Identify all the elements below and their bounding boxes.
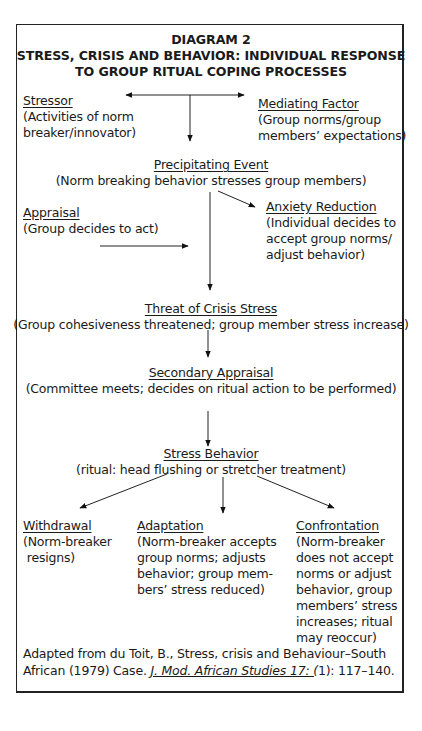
anxiety-reduction-heading: Anxiety Reduction	[266, 199, 376, 215]
citation-line-2: African (1979) Case. J. Mod. African Stu…	[23, 663, 394, 679]
adaptation-text-line: group norms; adjusts	[137, 550, 266, 566]
citation-line-1: Adapted from du Toit, B., Stress, crisis…	[23, 646, 386, 662]
citation-journal: J. Mod. African Studies 17: (	[150, 663, 317, 678]
withdrawal-heading: Withdrawal	[23, 518, 91, 534]
mediating-factor-text-line: members’ expectations)	[258, 128, 406, 144]
anxiety-reduction-text-line: (Individual decides to	[266, 215, 396, 231]
arrow-to-withdrawal	[80, 474, 167, 508]
mediating-factor-heading: Mediating Factor	[258, 96, 359, 112]
anxiety-reduction-text-line: adjust behavior)	[266, 247, 365, 263]
anxiety-reduction-text-line: accept group norms/	[266, 231, 392, 247]
stressor-text-line: breaker/innovator)	[23, 125, 136, 141]
confrontation-text-line: (Norm-breaker	[296, 534, 385, 550]
secondary-appraisal-text-line: (Committee meets; decides on ritual acti…	[0, 381, 422, 397]
secondary-appraisal-heading: Secondary Appraisal	[0, 365, 422, 381]
adaptation-text-line: behavior; group mem-	[137, 566, 273, 582]
stress-behavior-text-line: (ritual: head flushing or stretcher trea…	[0, 462, 422, 478]
confrontation-text-line: increases; ritual	[296, 614, 393, 630]
arrow-to-confrontation	[257, 476, 334, 508]
appraisal-text-line: (Group decides to act)	[23, 221, 158, 237]
confrontation-text-line: may reoccur)	[296, 630, 377, 646]
stressor-heading: Stressor	[23, 93, 73, 109]
appraisal-heading: Appraisal	[23, 205, 80, 221]
stress-behavior-heading: Stress Behavior	[0, 446, 422, 462]
confrontation-text-line: behavior, group	[296, 582, 392, 598]
withdrawal-text-line: (Norm-breaker	[23, 534, 112, 550]
threat-text-line: (Group cohesiveness threatened; group me…	[0, 317, 422, 333]
citation-prefix: African (1979) Case.	[23, 663, 150, 678]
withdrawal-text-line: resigns)	[23, 550, 75, 566]
adaptation-text-line: bers’ stress reduced)	[137, 582, 265, 598]
stressor-text-line: (Activities of norm	[23, 109, 134, 125]
precipitating-event-heading: Precipitating Event	[0, 157, 422, 173]
adaptation-text-line: (Norm-breaker accepts	[137, 534, 276, 550]
confrontation-text-line: members’ stress	[296, 598, 397, 614]
confrontation-text-line: does not accept	[296, 550, 393, 566]
confrontation-text-line: norms or adjust	[296, 566, 391, 582]
threat-heading: Threat of Crisis Stress	[0, 301, 422, 317]
citation-suffix: 1): 117–140.	[318, 663, 395, 678]
adaptation-heading: Adaptation	[137, 518, 203, 534]
arrow-to-anxiety-reduction	[218, 191, 255, 207]
precipitating-event-text-line: (Norm breaking behavior stresses group m…	[0, 173, 422, 189]
mediating-factor-text-line: (Group norms/group	[258, 112, 381, 128]
confrontation-heading: Confrontation	[296, 518, 379, 534]
